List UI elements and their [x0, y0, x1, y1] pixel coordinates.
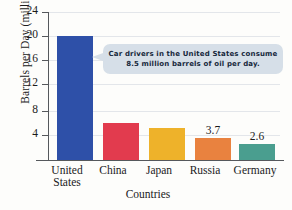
y-tick-label-8: 8 [0, 103, 38, 115]
y-tick-label-12: 12 [0, 76, 38, 88]
y-tick-label-4: 4 [0, 127, 38, 139]
bar-japan [149, 12, 185, 160]
x-axis-title: Countries [28, 188, 268, 200]
bar-value-germany: 2.6 [239, 130, 275, 142]
annotation-callout: Car drivers in the United States consume… [103, 44, 283, 74]
x-label-united-states-line2: States [41, 176, 93, 188]
bar-value-russia: 3.7 [195, 124, 231, 136]
bar-rect-germany [239, 144, 275, 160]
bar-united-states [57, 12, 93, 160]
annotation-line-1: Car drivers in the United States consume [107, 49, 279, 59]
bar-rect-japan [149, 128, 185, 160]
bar-chart-figure: Barrels per Day (millions) 24 20 16 12 8… [0, 0, 292, 210]
bar-china [103, 12, 139, 160]
bar-rect-united-states [57, 36, 93, 160]
y-tick-label-16: 16 [0, 52, 38, 64]
annotation-line-2: 8.5 million barrels of oil per day. [107, 59, 279, 69]
x-label-china: China [87, 164, 139, 176]
bar-germany: 2.6 [239, 12, 275, 160]
x-label-united-states: United States [41, 164, 93, 188]
y-tick-label-20: 20 [0, 28, 38, 40]
x-label-germany: Germany [224, 164, 286, 176]
y-tick-label-24: 24 [0, 4, 38, 16]
bar-russia: 3.7 [195, 12, 231, 160]
x-axis-line [36, 160, 284, 161]
bar-rect-china [103, 123, 139, 160]
bar-series: 3.7 2.6 [48, 12, 280, 160]
x-label-united-states-line1: United [41, 164, 93, 176]
bar-rect-russia [195, 138, 231, 160]
